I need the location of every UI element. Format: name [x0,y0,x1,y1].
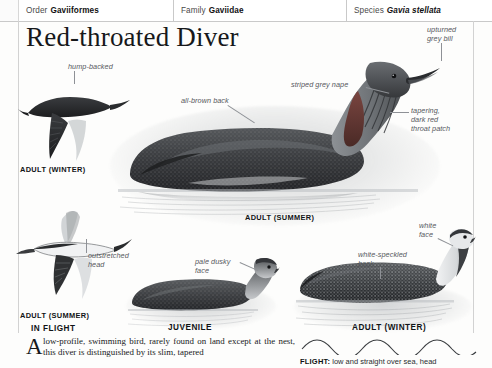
leader-white-speckled-back [380,267,381,279]
caption-in-flight: IN FLIGHT [31,324,76,333]
flight-pattern-diagram [300,335,480,355]
leader-upturned-grey-bill [441,43,442,61]
annotation-upturned-grey-bill-line2: grey bill [427,34,453,43]
taxonomy-order-key: Order [26,6,47,15]
annotation-striped-grey-nape: striped grey nape [291,80,348,89]
annotation-white-speckled-back: white-speckled back [358,250,407,268]
annotation-pale-dusky-face: pale dusky face [195,257,230,275]
leader-hump-backed [74,71,75,84]
bird-adult-winter-flight [18,71,130,169]
bird-adult-winter-swimming [296,227,476,329]
annotation-throat-patch-line3: throat patch [411,124,450,133]
bird-adult-summer-swimming [118,43,458,218]
field-guide-page: Order Gaviiformes Family Gaviidae Specie… [0,0,492,368]
annotation-hump-backed: hump-backed [68,62,113,71]
annotation-upturned-grey-bill: upturned grey bill [427,25,456,43]
annotation-all-brown-back: all-brown back [181,96,229,105]
annotation-outstretched-head: outstretched head [88,251,129,269]
annotation-white-face: white face [419,221,436,239]
annotation-white-face-line1: white [419,221,436,230]
taxonomy-family-cell: Family Gaviidae [173,0,346,21]
annotation-white-speckled-back-line1: white-speckled [358,250,407,259]
taxonomy-species-key: Species [354,6,384,15]
annotation-white-face-line2: face [419,230,433,239]
caption-adult-winter-flight: ADULT (WINTER) [20,165,86,174]
flight-wave-icon [300,335,480,355]
annotation-throat-patch-line1: tapering, [411,106,440,115]
taxonomy-family-value: Gaviidae [209,6,244,15]
annotation-throat-patch: tapering, dark red throat patch [411,106,450,134]
illustration-plate: Red-throated Diver [0,21,492,333]
annotation-pale-dusky-face-line2: face [195,266,209,275]
taxonomy-order-cell: Order Gaviiformes [19,0,173,21]
annotation-throat-patch-line2: dark red [411,115,438,124]
annotation-upturned-grey-bill-line1: upturned [427,25,456,34]
body-text-dropcap: A [26,335,43,358]
annotation-outstretched-head-line1: outstretched [88,251,129,260]
leader-throat-patch [390,112,409,113]
taxonomy-header: Order Gaviiformes Family Gaviidae Specie… [0,0,492,22]
body-text: low-profile, swimming bird, rarely found… [43,336,295,359]
annotation-white-speckled-back-line2: back [358,259,374,268]
taxonomy-order-value: Gaviiformes [50,6,98,15]
flight-label: FLIGHT: [300,357,330,366]
flight-text-value: low and straight over sea, head [332,357,436,366]
taxonomy-species-cell: Species Gavia stellata [346,0,492,21]
annotation-outstretched-head-line2: head [88,260,104,269]
caption-juvenile: JUVENILE [168,323,212,332]
footer-section: A low-profile, swimming bird, rarely fou… [0,333,492,368]
caption-adult-summer-swimming: ADULT (SUMMER) [245,213,314,222]
taxonomy-family-key: Family [181,6,206,15]
annotation-pale-dusky-face-line1: pale dusky [195,257,230,266]
header-gutter [0,0,19,21]
caption-adult-summer-flight: ADULT (SUMMER) [20,311,89,320]
flight-description: FLIGHT: low and straight over sea, head [300,357,490,366]
leader-outstretched-head [86,239,87,253]
taxonomy-species-value: Gavia stellata [387,6,441,15]
caption-adult-winter-swimming: ADULT (WINTER) [352,323,426,332]
